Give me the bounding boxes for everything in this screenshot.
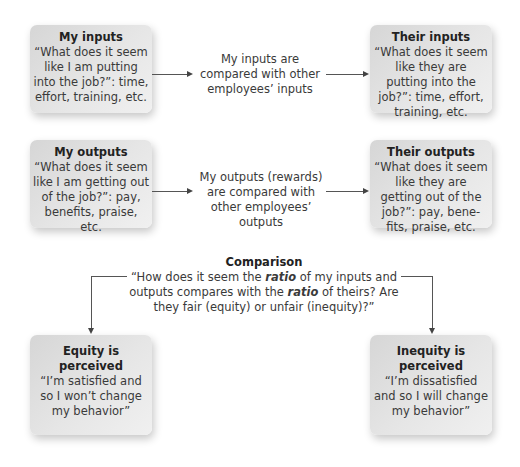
comparison-title: Comparison	[128, 255, 400, 270]
equity-box: Equity is perceived “I’m satisfied and s…	[30, 335, 152, 435]
my-inputs-body: “What does it seem like I am putting int…	[33, 45, 149, 105]
my-outputs-title: My outputs	[33, 145, 149, 160]
their-inputs-body: “What does it seem like they are putting…	[373, 45, 489, 120]
arrow-right-icon	[187, 71, 193, 77]
arrow-right-icon	[363, 71, 369, 77]
equity-body: “I’m satisfied and so I won’t change my …	[33, 374, 149, 419]
equity-title: Equity is perceived	[33, 344, 149, 374]
my-inputs-box: My inputs “What does it seem like I am p…	[30, 25, 152, 113]
ratio-emphasis: ratio	[265, 270, 296, 284]
arrow-down-icon	[429, 328, 435, 334]
inequity-title: Inequity is perceived	[373, 344, 489, 374]
their-inputs-box: Their inputs “What does it seem like the…	[370, 25, 492, 113]
ratio-emphasis: ratio	[288, 285, 319, 299]
inputs-arrow-right-line	[326, 74, 364, 75]
inequity-branch-v	[432, 276, 433, 329]
comparison-text: Comparison “How does it seem the ratio o…	[128, 255, 400, 315]
their-inputs-title: Their inputs	[373, 30, 489, 45]
their-outputs-box: Their outputs “What does it seem like th…	[370, 140, 492, 228]
comparison-q-part1: “How does it seem the	[131, 270, 265, 284]
inequity-box: Inequity is perceived “I’m dissatisfied …	[370, 335, 492, 435]
my-outputs-body: “What does it seem like I am getting out…	[33, 160, 149, 235]
equity-branch-h	[91, 276, 127, 277]
their-outputs-title: Their outputs	[373, 145, 489, 160]
arrow-down-icon	[88, 328, 94, 334]
outputs-arrow-right-line	[326, 191, 364, 192]
my-inputs-title: My inputs	[33, 30, 149, 45]
arrow-right-icon	[363, 188, 369, 194]
outputs-comparison-label: My outputs (rewards) are compared with o…	[190, 170, 332, 230]
inputs-comparison-label: My inputs are compared with other employ…	[196, 52, 324, 97]
inputs-arrow-left-line	[152, 74, 188, 75]
my-outputs-box: My outputs “What does it seem like I am …	[30, 140, 152, 228]
outputs-arrow-left-line	[152, 191, 188, 192]
inequity-branch-h	[401, 276, 433, 277]
their-outputs-body: “What does it seem like they are getting…	[373, 160, 489, 235]
equity-branch-v	[91, 276, 92, 329]
inequity-body: “I’m dissatisfied and so I will change m…	[373, 374, 489, 419]
